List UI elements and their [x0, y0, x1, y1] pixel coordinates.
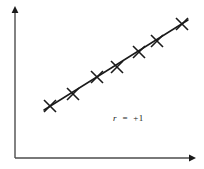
correlation-annotation: r = +1: [113, 113, 144, 123]
scatter-plot-canvas: r = +1: [0, 0, 204, 169]
correlation-value: +1: [133, 113, 143, 123]
plot-background: [0, 0, 204, 169]
correlation-variable: r: [113, 113, 117, 123]
correlation-relation: =: [122, 113, 127, 123]
correlation-figure: r = +1: [0, 0, 204, 169]
